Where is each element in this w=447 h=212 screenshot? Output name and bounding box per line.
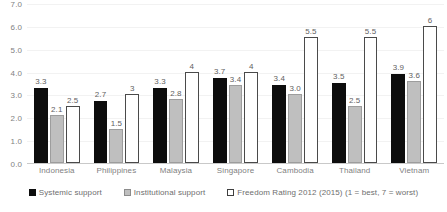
bar[interactable]: 2.5 <box>66 106 80 163</box>
x-axis-category-label: Cambodia <box>265 166 325 175</box>
bar-slot: 3.6 <box>407 4 421 163</box>
bar-group: 2.71.53 <box>87 4 147 163</box>
legend-item[interactable]: Institutional support <box>124 188 205 197</box>
bar[interactable]: 3.0 <box>288 94 302 163</box>
y-axis-tick-label: 2.0 <box>11 114 22 123</box>
bar-value-label: 2.5 <box>349 96 360 105</box>
y-axis: 7.06.05.04.03.02.01.00.0 <box>0 4 26 164</box>
bar-slot: 5.5 <box>364 4 378 163</box>
y-axis-tick-label: 6.0 <box>11 22 22 31</box>
bar-value-label: 4 <box>249 62 254 71</box>
y-axis-tick-label: 1.0 <box>11 137 22 146</box>
bar[interactable]: 3 <box>125 94 139 163</box>
bar-value-label: 4 <box>190 62 195 71</box>
bar-slot: 2.7 <box>94 4 108 163</box>
bar-group: 3.43.05.5 <box>265 4 325 163</box>
x-axis-category-label: Singapore <box>206 166 266 175</box>
bar[interactable]: 3.5 <box>332 83 346 163</box>
plot-wrapper: 7.06.05.04.03.02.01.00.0 3.32.12.52.71.5… <box>0 4 447 182</box>
x-axis-category-label: Thailand <box>325 166 385 175</box>
bar-group: 3.93.66 <box>384 4 444 163</box>
bar-slot: 3.3 <box>34 4 48 163</box>
bar-value-label: 3.7 <box>214 67 225 76</box>
plot-area: 3.32.12.52.71.533.32.843.73.443.43.05.53… <box>27 4 444 164</box>
legend-swatch-icon <box>29 189 36 196</box>
legend-label: Freedom Rating 2012 (2015) (1 = best, 7 … <box>237 188 418 197</box>
bar-value-label: 2.5 <box>67 96 78 105</box>
bar-chart: 7.06.05.04.03.02.01.00.0 3.32.12.52.71.5… <box>0 0 447 212</box>
bar-value-label: 3.4 <box>274 74 285 83</box>
bar[interactable]: 5.5 <box>304 37 318 163</box>
bar-slot: 3.7 <box>213 4 227 163</box>
bar-value-label: 3.3 <box>154 77 165 86</box>
bar-group: 3.73.44 <box>206 4 266 163</box>
bar-slot: 1.5 <box>109 4 123 163</box>
bar-slot: 6 <box>423 4 437 163</box>
bar[interactable]: 3.3 <box>153 88 167 163</box>
bar[interactable]: 2.7 <box>94 101 108 163</box>
legend-swatch-icon <box>227 189 234 196</box>
bar-group: 3.32.12.5 <box>27 4 87 163</box>
bar[interactable]: 6 <box>423 26 437 163</box>
bar-value-label: 5.5 <box>305 27 316 36</box>
bar-value-label: 2.7 <box>95 90 106 99</box>
bar-slot: 3.5 <box>332 4 346 163</box>
bar-value-label: 5.5 <box>365 27 376 36</box>
y-axis-tick-label: 7.0 <box>11 0 22 9</box>
y-axis-tick-label: 4.0 <box>11 68 22 77</box>
bar-slot: 3.0 <box>288 4 302 163</box>
bar[interactable]: 3.6 <box>407 81 421 163</box>
bar[interactable]: 3.7 <box>213 78 227 163</box>
x-axis-category-label: Vietnam <box>384 166 444 175</box>
bar[interactable]: 4 <box>185 72 199 163</box>
bar-value-label: 3 <box>130 84 135 93</box>
legend-item[interactable]: Freedom Rating 2012 (2015) (1 = best, 7 … <box>227 188 418 197</box>
bar[interactable]: 3.4 <box>229 85 243 163</box>
bar-value-label: 3.0 <box>289 84 300 93</box>
bar-slot: 5.5 <box>304 4 318 163</box>
bar-slot: 4 <box>244 4 258 163</box>
bar-slot: 2.8 <box>169 4 183 163</box>
bar[interactable]: 1.5 <box>109 129 123 163</box>
bar[interactable]: 2.1 <box>50 115 64 163</box>
bar[interactable]: 3.9 <box>391 74 405 163</box>
legend-item[interactable]: Systemic support <box>29 188 102 197</box>
bar-slot: 3.3 <box>153 4 167 163</box>
bar-value-label: 2.8 <box>170 89 181 98</box>
bar[interactable]: 2.8 <box>169 99 183 163</box>
chart-legend: Systemic supportInstitutional supportFre… <box>0 188 447 197</box>
bar-value-label: 3.9 <box>393 63 404 72</box>
bar-slot: 3.9 <box>391 4 405 163</box>
bar-value-label: 3.6 <box>409 71 420 80</box>
bar-slot: 3.4 <box>272 4 286 163</box>
bar[interactable]: 4 <box>244 72 258 163</box>
x-axis-category-label: Philippines <box>87 166 147 175</box>
x-axis-labels: IndonesiaPhilippinesMalaysiaSingaporeCam… <box>27 166 444 175</box>
bar-value-label: 3.5 <box>333 72 344 81</box>
bar-value-label: 3.4 <box>230 75 241 84</box>
y-axis-tick-label: 0.0 <box>11 160 22 169</box>
bar[interactable]: 2.5 <box>348 106 362 163</box>
bar-slot: 2.5 <box>348 4 362 163</box>
legend-label: Institutional support <box>134 188 205 197</box>
bar-group: 3.32.84 <box>146 4 206 163</box>
bar-groups: 3.32.12.52.71.533.32.843.73.443.43.05.53… <box>27 4 444 163</box>
bar-value-label: 1.5 <box>111 119 122 128</box>
bar-slot: 4 <box>185 4 199 163</box>
x-axis-category-label: Indonesia <box>27 166 87 175</box>
legend-swatch-icon <box>124 189 131 196</box>
legend-label: Systemic support <box>39 188 102 197</box>
y-axis-tick-label: 3.0 <box>11 91 22 100</box>
bar-value-label: 6 <box>428 16 433 25</box>
bar[interactable]: 5.5 <box>364 37 378 163</box>
bar-value-label: 3.3 <box>35 77 46 86</box>
bar-value-label: 2.1 <box>51 105 62 114</box>
bar[interactable]: 3.4 <box>272 85 286 163</box>
y-axis-tick-label: 5.0 <box>11 45 22 54</box>
bar-slot: 3.4 <box>229 4 243 163</box>
bar-group: 3.52.55.5 <box>325 4 385 163</box>
bar-slot: 3 <box>125 4 139 163</box>
bar-slot: 2.5 <box>66 4 80 163</box>
bar[interactable]: 3.3 <box>34 88 48 163</box>
bar-slot: 2.1 <box>50 4 64 163</box>
